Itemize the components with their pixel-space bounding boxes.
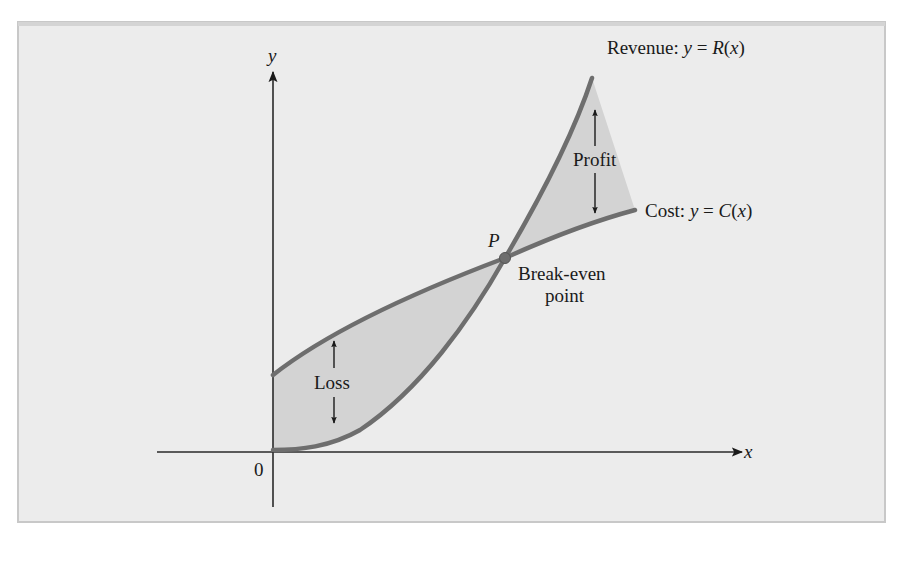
break-even-caption-line1: Break-even	[518, 263, 606, 284]
cost-label-eq: =	[698, 200, 718, 221]
cost-label: Cost: y = C(x)	[645, 200, 752, 222]
cost-label-close: )	[746, 200, 752, 222]
cost-label-var: y	[688, 200, 699, 221]
cost-label-prefix: Cost:	[645, 200, 690, 221]
point-p-label: P	[487, 230, 500, 251]
revenue-label-var: y	[682, 37, 693, 58]
x-axis-label: x	[743, 441, 753, 462]
revenue-label-prefix: Revenue:	[607, 37, 684, 58]
break-even-diagram: y x 0 Revenue: y = R(x) Cost: y = C(x) P…	[0, 0, 905, 564]
figure-panel	[18, 22, 885, 522]
revenue-label-eq: =	[692, 37, 712, 58]
cost-label-func: C	[719, 200, 732, 221]
loss-label: Loss	[314, 372, 350, 393]
revenue-label: Revenue: y = R(x)	[607, 37, 745, 59]
revenue-label-close: )	[739, 37, 745, 59]
break-even-caption-line2: point	[545, 285, 585, 306]
profit-label: Profit	[573, 149, 617, 170]
panel-top-edge	[18, 22, 885, 26]
break-even-point-marker	[500, 253, 511, 264]
revenue-label-func: R	[711, 37, 724, 58]
y-axis-label: y	[266, 45, 277, 66]
origin-label: 0	[254, 459, 264, 480]
